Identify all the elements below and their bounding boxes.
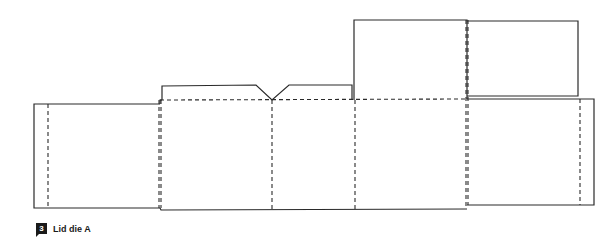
figure-caption: 3 Lid die A — [36, 223, 91, 234]
top-fold-line — [160, 99, 467, 100]
lid-die-diagram — [0, 0, 607, 242]
upper-flap-outline — [354, 20, 467, 100]
caption-text: Lid die A — [53, 224, 91, 234]
left-panel-outline — [34, 104, 160, 208]
figure-number-badge: 3 — [36, 223, 47, 234]
right-panel-outline — [467, 99, 594, 205]
top-tab-outline — [162, 85, 352, 100]
far-upper-flap-outline — [467, 21, 578, 96]
body-bottom-cut — [160, 208, 467, 210]
